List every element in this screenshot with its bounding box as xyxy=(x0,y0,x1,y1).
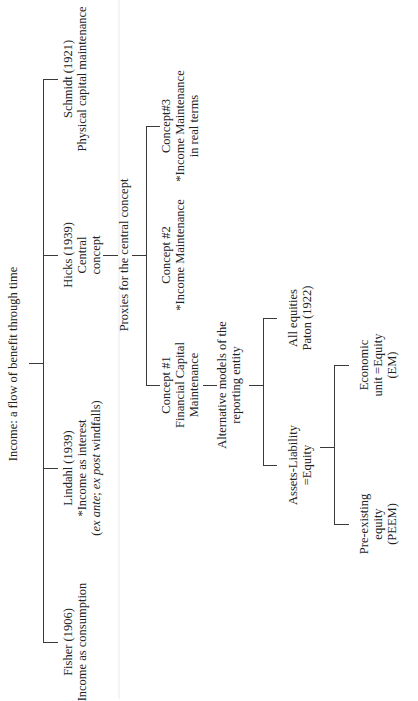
page-fold-shadow xyxy=(118,0,120,699)
concept3-line-1: Concept#3 xyxy=(159,70,173,181)
schmidt-line-1: Schmidt (1921) xyxy=(61,6,75,151)
peem-connector xyxy=(334,524,349,525)
lindahl-note-ex-ante: ex ante xyxy=(89,496,103,532)
em-line-2: unit =Equity xyxy=(371,334,385,397)
concept1-line-3: Maintenance xyxy=(187,342,201,428)
all-equities-line-1: All equities xyxy=(286,286,300,351)
node-concept1: Concept #1 Financial Capital Maintenance xyxy=(159,342,201,428)
lindahl-line-3: (ex ante; ex post windfalls) xyxy=(89,400,103,535)
altmodels-to-entity-connector xyxy=(249,385,263,386)
main-trunk-line xyxy=(43,79,44,643)
node-fisher: Fisher (1906) Income as consumption xyxy=(61,583,89,701)
all-equities-line-2: Paton (1922) xyxy=(300,286,314,351)
concept1-connector xyxy=(146,385,160,386)
entity-bus-line xyxy=(263,318,264,466)
concept1-line-1: Concept #1 xyxy=(159,342,173,428)
all-equities-connector xyxy=(263,318,277,319)
lindahl-note-prefix: ( xyxy=(89,532,103,536)
proxies-to-concepts-connector xyxy=(132,255,146,256)
fisher-line-1: Fisher (1906) xyxy=(61,583,75,701)
alt-models-line-1: Alternative models of the xyxy=(215,321,229,448)
node-lindahl: Lindahl (1939) *Income as interest (ex a… xyxy=(61,400,103,535)
node-concept2: Concept #2 *Income Maintenance xyxy=(159,199,187,310)
peem-line-3: (PEEM) xyxy=(385,494,399,554)
node-schmidt: Schmidt (1921) Physical capital maintena… xyxy=(61,6,89,151)
lindahl-note-sep: ; xyxy=(89,489,103,496)
node-all-equities: All equities Paton (1922) xyxy=(286,286,314,351)
hicks-line-2: Central xyxy=(75,222,89,288)
concepts-bus-line xyxy=(146,126,147,386)
assets-liability-to-equity-connector xyxy=(320,447,334,448)
alt-models-label: Alternative models of the reporting enti… xyxy=(215,321,243,448)
concept3-connector xyxy=(146,126,160,127)
node-em: Economic unit =Equity (EM) xyxy=(357,334,399,397)
schmidt-connector xyxy=(43,79,58,80)
title-connector xyxy=(29,363,43,364)
lindahl-note-ex-post: ex post xyxy=(89,454,103,489)
fisher-connector xyxy=(43,642,58,643)
equity-bus-line xyxy=(334,365,335,525)
lindahl-line-2: *Income as interest xyxy=(75,400,89,535)
node-hicks: Hicks (1939) Central concept xyxy=(61,222,103,288)
assets-liability-line-1: Assets-Liability xyxy=(286,425,300,505)
assets-liability-connector xyxy=(263,465,277,466)
node-peem: Pre-existing equity (PEEM) xyxy=(357,494,399,554)
assets-liability-line-2: =Equity xyxy=(300,425,314,505)
proxies-label: Proxies for the central concept xyxy=(117,179,131,332)
hicks-line-3: concept xyxy=(89,222,103,288)
concept3-line-2: *Income Maintenance xyxy=(173,70,187,181)
lindahl-line-1: Lindahl (1939) xyxy=(61,400,75,535)
hicks-line-1: Hicks (1939) xyxy=(61,222,75,288)
concept3-line-3: in real terms xyxy=(187,70,201,181)
em-line-1: Economic xyxy=(357,334,371,397)
em-line-3: (EM) xyxy=(385,334,399,397)
concept1-line-2: Financial Capital xyxy=(173,342,187,428)
schmidt-line-2: Physical capital maintenance xyxy=(75,6,89,151)
lindahl-note-suffix: windfalls) xyxy=(89,400,103,454)
node-concept3: Concept#3 *Income Maintenance in real te… xyxy=(159,70,201,181)
alt-models-line-2: reporting entity xyxy=(229,321,243,448)
lindahl-connector xyxy=(43,468,58,469)
peem-line-1: Pre-existing xyxy=(357,494,371,554)
concept2-line-1: Concept #2 xyxy=(159,199,173,310)
node-assets-liability: Assets-Liability =Equity xyxy=(286,425,314,505)
hicks-to-proxies-connector xyxy=(103,255,118,256)
fisher-line-2: Income as consumption xyxy=(75,583,89,701)
proxies-text: Proxies for the central concept xyxy=(117,179,131,332)
title-text: Income: a flow of benefit through time xyxy=(6,267,20,461)
em-connector xyxy=(334,365,349,366)
peem-line-2: equity xyxy=(371,494,385,554)
diagram-title: Income: a flow of benefit through time xyxy=(6,267,20,461)
hicks-connector xyxy=(43,255,58,256)
concept2-line-2: *Income Maintenance xyxy=(173,199,187,310)
